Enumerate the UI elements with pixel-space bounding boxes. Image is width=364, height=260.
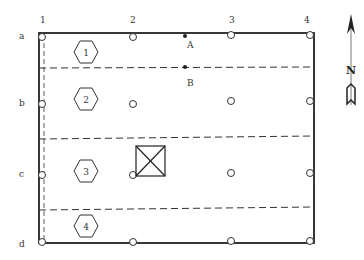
point-a-marker — [183, 34, 187, 38]
zone-1-label: 1 — [83, 48, 89, 58]
dashed-divider-3 — [39, 207, 314, 210]
column-b4-icon — [307, 98, 314, 105]
north-label: N — [346, 64, 356, 77]
row-label-d: d — [19, 239, 25, 249]
column-label-2: 2 — [130, 15, 136, 25]
column-a1-icon — [39, 34, 46, 41]
north-arrow-icon — [347, 14, 355, 105]
zone-4-label: 4 — [83, 222, 89, 232]
column-label-4: 4 — [304, 15, 310, 25]
point-b-marker — [183, 65, 187, 69]
column-c3-icon — [228, 170, 235, 177]
column-d4-icon — [307, 238, 314, 245]
column-b2-icon — [130, 101, 137, 108]
column-b1-icon — [39, 101, 46, 108]
row-label-b: b — [19, 98, 25, 108]
column-a3-icon — [228, 32, 235, 39]
row-label-a: a — [19, 31, 25, 41]
column-d3-icon — [228, 238, 235, 245]
column-a2-icon — [130, 34, 137, 41]
point-b-label: B — [187, 78, 194, 88]
row-label-c: c — [19, 169, 24, 179]
column-a4-icon — [307, 32, 314, 39]
dashed-divider-1 — [39, 67, 314, 68]
column-d1-icon — [39, 239, 46, 246]
point-a-label: A — [186, 40, 194, 50]
shaft-crossed-box-icon — [136, 146, 165, 176]
column-c4-icon — [307, 170, 314, 177]
column-label-1: 1 — [40, 15, 46, 25]
column-c1-icon — [39, 172, 46, 179]
zone-3-label: 3 — [83, 167, 89, 177]
column-markers — [39, 32, 314, 246]
dashed-divider-2 — [39, 136, 314, 139]
floor-plan: 1 2 3 4 a b c d A B — [0, 0, 364, 260]
column-d2-icon — [130, 239, 137, 246]
column-b3-icon — [228, 98, 235, 105]
column-label-3: 3 — [229, 15, 235, 25]
zone-2-label: 2 — [83, 95, 89, 105]
